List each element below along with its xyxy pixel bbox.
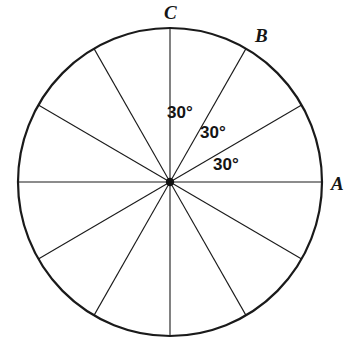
- radius-spoke-120: [94, 49, 170, 182]
- circle-diagram-svg: [0, 0, 353, 345]
- radius-spoke-240: [94, 182, 170, 315]
- radius-spoke-210: [38, 182, 170, 259]
- geometry-figure: C B A 30° 30° 30°: [0, 0, 353, 345]
- angle-label-upper: 30°: [167, 104, 193, 121]
- point-label-c: C: [164, 3, 177, 22]
- angle-label-lower: 30°: [213, 156, 239, 173]
- radius-spoke-300: [170, 182, 246, 315]
- angle-label-middle: 30°: [200, 124, 226, 141]
- radius-spoke-330: [170, 182, 302, 259]
- radius-spoke-150: [38, 105, 170, 182]
- center-point-dot: [166, 178, 174, 186]
- point-label-a: A: [331, 174, 344, 193]
- point-label-b: B: [255, 26, 268, 45]
